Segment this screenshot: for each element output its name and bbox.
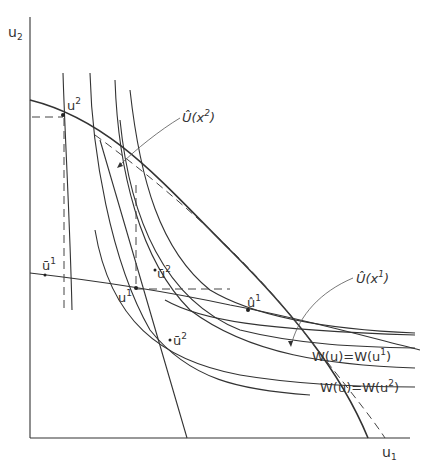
steep-curve-3 (115, 80, 415, 368)
point-ubar1 (44, 274, 47, 277)
frontier-x1-curve (30, 100, 368, 438)
label-u1: u1 (118, 288, 132, 305)
point-u2 (61, 113, 65, 117)
x-axis-label: u1 (382, 444, 397, 462)
label-frontier-x1: Û(x1) (356, 269, 389, 286)
leader-frontier-x2 (120, 118, 180, 165)
label-uhat1: û1 (247, 293, 261, 310)
arrow-frontier-x1-icon (288, 341, 293, 347)
label-welfare-u1: W(u)=W(u1) (312, 347, 391, 364)
label-ubar2-upper: ū2 (157, 264, 171, 281)
point-ubar2-lower (169, 339, 172, 342)
label-u2: u2 (67, 96, 81, 113)
label-ubar1: ū1 (42, 256, 56, 273)
indifference-ubar2-curve (130, 90, 415, 333)
y-axis-label: u2 (8, 24, 23, 42)
label-welfare-u2: W(u)=W(u2) (320, 378, 399, 395)
label-ubar2-lower: ū2 (173, 331, 187, 348)
point-u1 (134, 286, 138, 290)
utility-diagram: u2 u1 u2 u1 ū1 ū2 ū2 û1 Û(x2) Û(x1) W(u)… (0, 0, 439, 471)
label-frontier-x2: Û(x2) (182, 108, 215, 125)
